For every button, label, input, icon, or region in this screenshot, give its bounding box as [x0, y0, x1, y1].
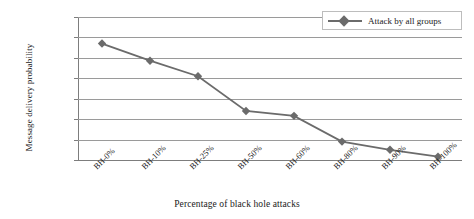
y-axis-tick-mark: [74, 160, 78, 161]
legend: Attack by all groups: [322, 11, 462, 30]
data-point-marker: [98, 39, 106, 47]
series-attack-by-all-groups: [78, 17, 462, 160]
gridline: [78, 160, 462, 161]
y-axis-title: Message delivery probability: [24, 18, 35, 178]
data-point-marker: [146, 57, 154, 65]
line-chart: Message delivery probability 00.050.10.1…: [0, 0, 474, 219]
legend-label: Attack by all groups: [368, 16, 441, 26]
x-axis-title: Percentage of black hole attacks: [0, 199, 474, 210]
data-point-marker: [338, 137, 346, 145]
legend-marker-icon: [328, 15, 362, 26]
data-point-marker: [290, 112, 298, 120]
plot-area: [78, 17, 462, 160]
